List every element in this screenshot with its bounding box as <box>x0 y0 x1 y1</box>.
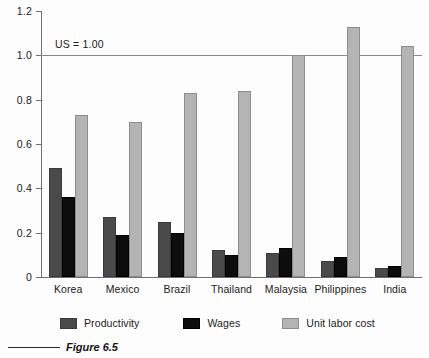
y-axis-tick-label: 0 <box>26 271 32 283</box>
bar-wages <box>225 255 238 277</box>
bar-wages <box>62 197 75 277</box>
x-axis-category-label: Mexico <box>106 283 140 295</box>
bar-wages <box>279 248 292 277</box>
legend-label: Unit labor cost <box>306 317 375 329</box>
y-axis-tick-label: 1.2 <box>17 5 32 17</box>
x-axis-line <box>41 277 422 278</box>
legend-item: Wages <box>183 317 240 329</box>
bar-group: Mexico <box>95 11 149 277</box>
bar-group-bars <box>150 11 204 277</box>
legend-swatch-ulc <box>282 318 299 329</box>
bar-productivity <box>375 268 388 277</box>
bar-group: Malaysia <box>259 11 313 277</box>
bar-group-bars <box>313 11 367 277</box>
bar-productivity <box>158 222 171 277</box>
bar-ulc <box>238 91 251 277</box>
bar-productivity <box>266 253 279 277</box>
caption-rule <box>8 347 60 348</box>
bar-wages <box>116 235 129 277</box>
bar-productivity <box>321 261 334 277</box>
bar-group: Korea <box>41 11 95 277</box>
y-axis-tick-label: 0.6 <box>17 138 32 150</box>
bar-ulc <box>184 93 197 277</box>
bar-wages <box>334 257 347 277</box>
bar-group: Philippines <box>313 11 367 277</box>
legend-swatch-productivity <box>60 318 77 329</box>
bar-wages <box>171 233 184 277</box>
bar-ulc <box>129 122 142 277</box>
chart-legend: ProductivityWagesUnit labor cost <box>60 317 375 329</box>
x-axis-category-label: Brazil <box>164 283 191 295</box>
y-axis-tick-label: 0.4 <box>17 182 32 194</box>
bar-ulc <box>401 46 414 277</box>
x-axis-category-label: Philippines <box>314 283 366 295</box>
bar-group-bars <box>259 11 313 277</box>
y-axis-tick-label: 0.2 <box>17 227 32 239</box>
caption-text: Figure 6.5 <box>66 341 118 353</box>
y-axis-tick-label: 0.8 <box>17 94 32 106</box>
bar-group-bars <box>41 11 95 277</box>
bar-group-bars <box>95 11 149 277</box>
figure-container: 00.20.40.60.81.01.2 US = 1.00 KoreaMexic… <box>0 0 429 358</box>
bar-productivity <box>212 250 225 277</box>
legend-swatch-wages <box>183 318 200 329</box>
bar-productivity <box>103 217 116 277</box>
plot-area: 00.20.40.60.81.01.2 US = 1.00 KoreaMexic… <box>41 11 422 277</box>
bar-ulc <box>347 27 360 277</box>
legend-item: Unit labor cost <box>282 317 375 329</box>
bar-group-bars <box>204 11 258 277</box>
y-axis-tick-label: 1.0 <box>17 49 32 61</box>
bar-wages <box>388 266 401 277</box>
legend-item: Productivity <box>60 317 139 329</box>
x-axis-category-label: Thailand <box>211 283 252 295</box>
bar-group-bars <box>368 11 422 277</box>
bar-ulc <box>292 55 305 277</box>
figure-caption: Figure 6.5 <box>8 341 118 353</box>
legend-label: Productivity <box>84 317 139 329</box>
y-axis-tick: 0 <box>36 277 41 278</box>
legend-label: Wages <box>207 317 240 329</box>
x-axis-category-label: India <box>383 283 406 295</box>
bar-productivity <box>49 168 62 277</box>
bar-ulc <box>75 115 88 277</box>
x-axis-category-label: Korea <box>54 283 83 295</box>
bar-group: India <box>368 11 422 277</box>
bar-group: Brazil <box>150 11 204 277</box>
x-axis-category-label: Malaysia <box>265 283 307 295</box>
bar-group: Thailand <box>204 11 258 277</box>
